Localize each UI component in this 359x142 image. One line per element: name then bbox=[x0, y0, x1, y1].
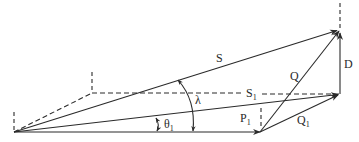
label-lambda: λ bbox=[195, 93, 201, 107]
diagram-svg: S S1 Q Q1 P1 D λ θ1 bbox=[0, 0, 359, 142]
lambda-angle-arc bbox=[178, 80, 193, 131]
label-d: D bbox=[344, 57, 353, 71]
label-s1: S1 bbox=[246, 86, 257, 102]
label-q: Q bbox=[290, 69, 299, 83]
vector-s1 bbox=[14, 95, 338, 133]
label-p1: P1 bbox=[240, 111, 251, 127]
theta1-angle-arc bbox=[156, 118, 158, 131]
vector-diagram: S S1 Q Q1 P1 D λ θ1 bbox=[0, 0, 359, 142]
label-theta1: θ1 bbox=[164, 117, 174, 133]
label-q1: Q1 bbox=[297, 113, 310, 129]
dashed-diagonal-origin-to-corner bbox=[14, 93, 92, 132]
vector-s bbox=[14, 31, 337, 133]
label-s: S bbox=[216, 51, 223, 65]
